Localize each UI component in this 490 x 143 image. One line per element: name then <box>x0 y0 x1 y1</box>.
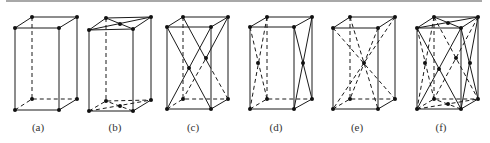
label-b: (b) <box>109 121 122 133</box>
cell-c <box>165 15 230 111</box>
label-a: (a) <box>32 121 44 133</box>
lattice-figure <box>0 0 490 143</box>
label-c: (c) <box>187 121 199 133</box>
label-d: (d) <box>270 121 283 133</box>
cell-d <box>248 15 314 111</box>
cell-e <box>331 15 397 111</box>
cell-b <box>87 15 153 113</box>
label-e: (e) <box>351 121 363 133</box>
cell-a <box>13 15 79 112</box>
cell-f <box>415 15 480 111</box>
label-f: (f) <box>436 121 447 133</box>
